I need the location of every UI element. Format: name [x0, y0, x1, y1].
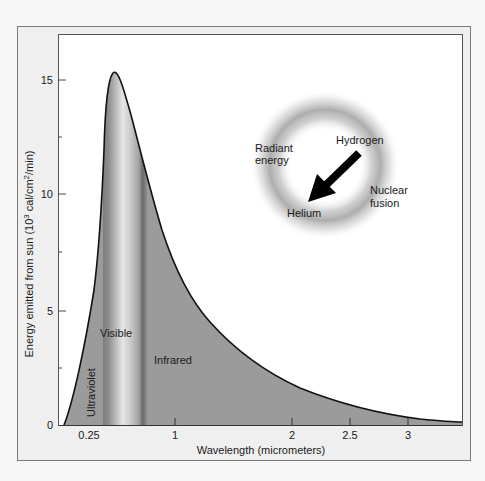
annotation-radiant: Radiant [255, 142, 293, 154]
region-label-infrared: Infrared [154, 354, 192, 366]
x-tick-label: 2 [289, 429, 295, 441]
annotation-hydrogen: Hydrogen [336, 134, 384, 146]
y-tick-label: 5 [47, 305, 53, 317]
y-axis-title: Energy emitted from sun (103 cal/cm2/min… [22, 151, 35, 358]
region-label-visible: Visible [100, 327, 132, 339]
y-tick-label: 0 [47, 419, 53, 431]
y-tick-label: 15 [41, 74, 53, 86]
x-tick-label: 1 [172, 429, 178, 441]
annotation-helium: Helium [287, 207, 321, 219]
x-tick-label: 3 [405, 429, 411, 441]
y-tick-label: 10 [41, 188, 53, 200]
region-label-ultraviolet: Ultraviolet [85, 368, 97, 417]
solar-spectrum-figure: 15 10 5 0 0.25 1 2 2.5 3 Wavelength (mic… [0, 0, 485, 481]
x-tick-label: 0.25 [78, 429, 99, 441]
x-tick-label: 2.5 [342, 429, 357, 441]
x-axis-title: Wavelength (micrometers) [197, 444, 326, 456]
annotation-nuclear: Nuclear [370, 184, 408, 196]
annotation-energy: energy [255, 154, 289, 166]
annotation-fusion: fusion [370, 197, 399, 209]
